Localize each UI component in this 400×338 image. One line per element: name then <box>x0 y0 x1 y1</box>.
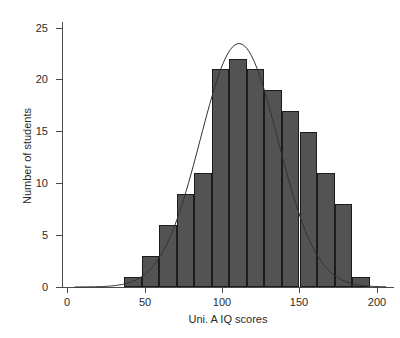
y-tick-10 <box>56 183 62 184</box>
y-axis-line <box>62 22 63 288</box>
x-tick-150 <box>299 287 300 293</box>
y-tick-label-25: 25 <box>8 23 48 34</box>
x-tick-label-50: 50 <box>120 296 170 308</box>
y-tick-label-0: 0 <box>8 282 48 293</box>
x-tick-50 <box>145 287 146 293</box>
x-tick-label-100: 100 <box>197 296 247 308</box>
x-tick-200 <box>377 287 378 293</box>
plot-area: 0 5 10 15 20 25 0 50 100 150 200 Uni. A … <box>0 0 400 338</box>
x-tick-label-150: 150 <box>274 296 324 308</box>
y-tick-20 <box>56 79 62 80</box>
x-tick-label-200: 200 <box>352 296 400 308</box>
histogram-bar <box>264 90 282 287</box>
histogram-chart: 0 5 10 15 20 25 0 50 100 150 200 Uni. A … <box>0 0 400 338</box>
x-tick-label-0: 0 <box>42 296 92 308</box>
histogram-bar <box>194 173 212 287</box>
histogram-bar <box>247 69 265 287</box>
histogram-bar <box>124 277 142 287</box>
x-axis-label: Uni. A IQ scores <box>62 313 394 325</box>
histogram-bar <box>229 59 247 287</box>
histogram-bar <box>300 132 318 287</box>
x-tick-0 <box>67 287 68 293</box>
y-axis-label: Number of students <box>21 66 33 246</box>
histogram-bar <box>212 69 230 287</box>
y-tick-0 <box>56 287 62 288</box>
histogram-bar <box>317 173 335 287</box>
y-tick-15 <box>56 131 62 132</box>
histogram-bar <box>142 256 160 287</box>
histogram-bar <box>177 194 195 287</box>
y-tick-5 <box>56 235 62 236</box>
histogram-bar <box>335 204 353 287</box>
histogram-bar <box>282 111 300 287</box>
x-tick-100 <box>222 287 223 293</box>
histogram-bar <box>159 225 177 287</box>
histogram-bar <box>352 277 370 287</box>
x-axis-line <box>62 287 394 288</box>
y-tick-25 <box>56 28 62 29</box>
